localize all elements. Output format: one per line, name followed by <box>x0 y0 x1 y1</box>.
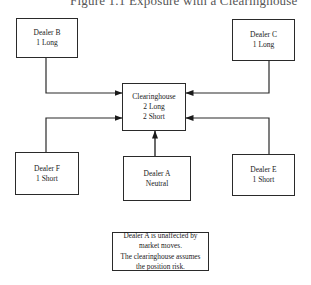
node-dealer-a-position: Neutral <box>146 179 169 189</box>
edge-dealer-e-arrow <box>186 118 269 154</box>
node-dealer-c: Dealer C 1 Long <box>232 19 295 61</box>
node-dealer-f-position: 1 Short <box>36 174 58 184</box>
node-clearinghouse-name: Clearinghouse <box>132 92 175 102</box>
node-dealer-c-position: 1 Long <box>253 40 274 50</box>
node-dealer-b-name: Dealer B <box>34 28 61 38</box>
node-clearinghouse: Clearinghouse 2 Long 2 Short <box>122 83 186 131</box>
edge-dealer-b-arrow <box>46 58 122 93</box>
note-line-4: the position risk. <box>136 262 185 273</box>
node-dealer-f-name: Dealer F <box>34 164 60 174</box>
node-dealer-f: Dealer F 1 Short <box>15 152 79 195</box>
node-dealer-b: Dealer B 1 Long <box>16 18 78 58</box>
explanation-note: Dealer A is unaffected by market moves. … <box>112 232 209 271</box>
node-clearinghouse-short: 2 Short <box>143 112 165 122</box>
node-dealer-c-name: Dealer C <box>250 30 277 40</box>
node-dealer-a-name: Dealer A <box>144 169 171 179</box>
node-dealer-a: Dealer A Neutral <box>123 156 191 201</box>
note-line-1: Dealer A is unaffected by <box>123 231 197 242</box>
node-dealer-e-name: Dealer E <box>250 165 276 175</box>
node-dealer-e-position: 1 Short <box>253 175 275 185</box>
note-line-3: The clearinghouse assumes <box>121 252 201 263</box>
node-clearinghouse-long: 2 Long <box>143 102 164 112</box>
note-line-2: market moves. <box>139 241 182 252</box>
edge-dealer-f-arrow <box>46 118 122 152</box>
node-dealer-b-position: 1 Long <box>36 38 57 48</box>
edge-dealer-c-arrow <box>186 61 269 93</box>
node-dealer-e: Dealer E 1 Short <box>232 154 295 196</box>
